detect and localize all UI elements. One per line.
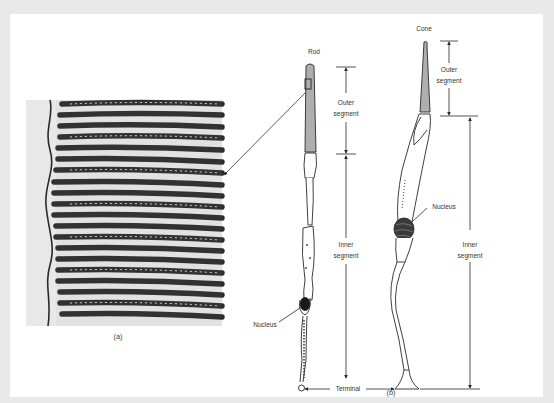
rod-nucleus-label: Nucleus xyxy=(249,319,281,330)
micrograph xyxy=(26,100,222,326)
cone-nucleus-label: Nucleus xyxy=(428,201,460,212)
rod-cell xyxy=(299,64,317,391)
cone-outer-segment-label: Outer segment xyxy=(432,64,466,86)
panel-b-caption: (b) xyxy=(383,387,399,398)
terminal-label: Terminal xyxy=(331,383,365,394)
rod-inner-segment-label: Inner segment xyxy=(329,239,363,261)
figure-drawing xyxy=(0,0,554,403)
magnification-pointer xyxy=(224,90,308,175)
cone-inner-segment-label: Inner segment xyxy=(453,239,487,261)
cone-title: Cone xyxy=(412,23,436,34)
cone-cell xyxy=(391,42,431,390)
rod-title: Rod xyxy=(304,46,324,57)
panel-a-caption: (a) xyxy=(110,331,126,342)
rod-outer-segment-label: Outer segment xyxy=(329,97,363,119)
